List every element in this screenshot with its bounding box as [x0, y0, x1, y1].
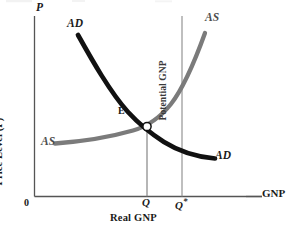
x-tick-label-q: Q	[142, 197, 150, 208]
scan-artifacts	[6, 0, 172, 2]
qstar-superscript: *	[183, 196, 188, 206]
origin-label: 0	[24, 198, 29, 208]
as-curve-label-top: AS	[205, 12, 219, 24]
x-tick-label-qstar: Q*	[175, 197, 187, 211]
ad-as-diagram: P Price Level (P) GNP 0 Real GNP Q Q* AD…	[0, 0, 296, 230]
y-axis-title: Price Level (P)	[0, 117, 4, 185]
equilibrium-point-marker	[143, 122, 151, 130]
as-curve-label-left: AS	[41, 136, 55, 148]
ad-curve-label-top: AD	[67, 18, 83, 30]
y-axis-symbol-label: P	[36, 2, 43, 14]
x-axis-title: Real GNP	[110, 213, 157, 224]
ad-curve-label-bottom: AD	[215, 150, 231, 162]
x-axis-symbol-label: GNP	[262, 188, 285, 199]
potential-gnp-label: Potential GNP	[159, 60, 169, 120]
qstar-base: Q	[175, 199, 183, 211]
equilibrium-point-label: E	[118, 106, 125, 116]
axis-lines	[35, 16, 263, 197]
